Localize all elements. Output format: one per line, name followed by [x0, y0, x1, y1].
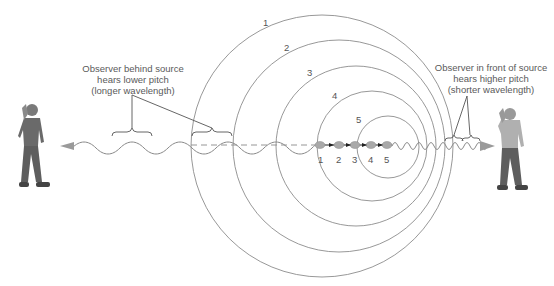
short-wavelength-wave — [392, 143, 487, 150]
caption-line: hears lower pitch — [78, 74, 188, 85]
wavefront-label-4: 4 — [332, 90, 337, 101]
diagram-canvas — [0, 0, 554, 286]
source-label-2: 2 — [336, 154, 341, 165]
left-wavelength-braces — [112, 95, 232, 136]
right-observer-caption: Observer in front of source hears higher… — [432, 62, 550, 95]
brace-long-2 — [192, 128, 232, 136]
doppler-effect-diagram: Observer behind source hears lower pitch… — [0, 0, 554, 286]
leader-line — [132, 95, 212, 128]
observer-in-front-figure — [497, 108, 528, 190]
caption-line: hears higher pitch — [432, 73, 550, 84]
long-wavelength-wave — [72, 142, 320, 154]
leader-line — [454, 96, 467, 135]
left-observer-caption: Observer behind source hears lower pitch… — [78, 63, 188, 96]
source-icon — [315, 142, 325, 149]
source-icon — [334, 142, 344, 149]
source-label-5: 5 — [384, 154, 389, 165]
source-icon — [366, 142, 376, 149]
brace-short-2 — [462, 135, 480, 141]
source-icon — [350, 142, 360, 149]
source-label-1: 1 — [318, 154, 323, 165]
caption-line: Observer behind source — [78, 63, 188, 74]
wavefront-label-5: 5 — [356, 114, 361, 125]
caption-line: Observer in front of source — [432, 62, 550, 73]
caption-line: (shorter wavelength) — [432, 84, 550, 95]
source-icon — [382, 142, 392, 149]
leader-line — [467, 96, 470, 135]
arrow-right-icon — [480, 141, 495, 151]
source-label-3: 3 — [352, 154, 357, 165]
wavefront-label-3: 3 — [307, 67, 312, 78]
wavefront-label-2: 2 — [284, 42, 289, 53]
observer-behind-figure — [18, 104, 50, 187]
brace-short-1 — [445, 135, 463, 141]
source-label-4: 4 — [368, 154, 373, 165]
brace-long-1 — [112, 128, 152, 136]
arrow-left-icon — [60, 142, 74, 150]
caption-line: (longer wavelength) — [78, 85, 188, 96]
wavefront-label-1: 1 — [263, 17, 268, 28]
